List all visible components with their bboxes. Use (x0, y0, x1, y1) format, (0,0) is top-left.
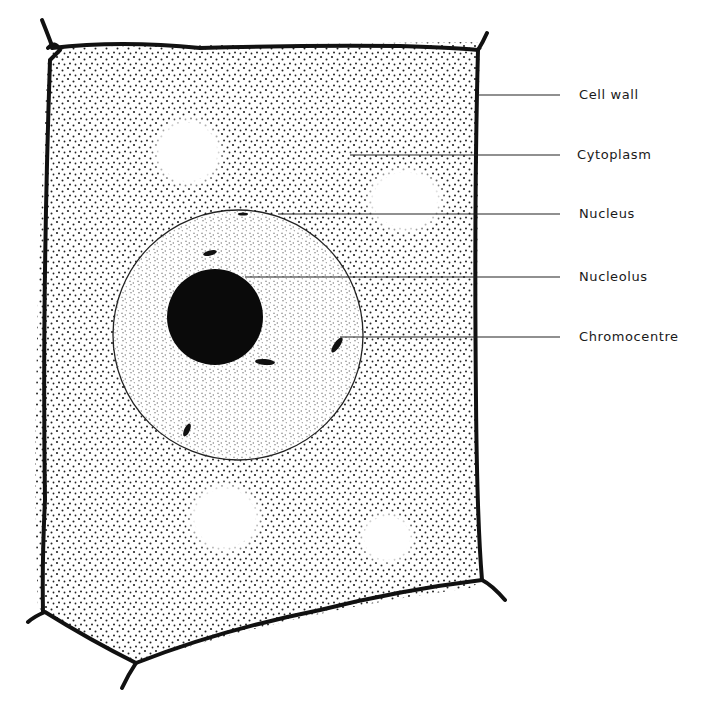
nucleus (113, 210, 363, 460)
plant-cell-diagram (0, 0, 701, 707)
nucleolus (167, 269, 263, 365)
label-nucleus: Nucleus (579, 206, 635, 222)
label-cytoplasm: Cytoplasm (577, 147, 652, 163)
label-nucleolus: Nucleolus (579, 269, 648, 285)
label-cell-wall: Cell wall (579, 87, 639, 103)
vacuole-2 (363, 164, 447, 236)
vacuole-1 (150, 114, 226, 190)
vacuole-3 (185, 480, 265, 556)
vacuole-4 (357, 510, 417, 566)
label-chromocentre: Chromocentre (579, 329, 679, 345)
